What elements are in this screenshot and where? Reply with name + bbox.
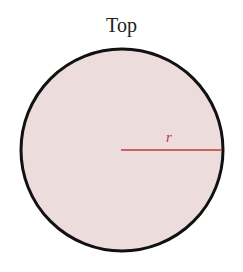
radius-label: r: [166, 129, 172, 145]
top-view-diagram: r: [0, 0, 243, 272]
